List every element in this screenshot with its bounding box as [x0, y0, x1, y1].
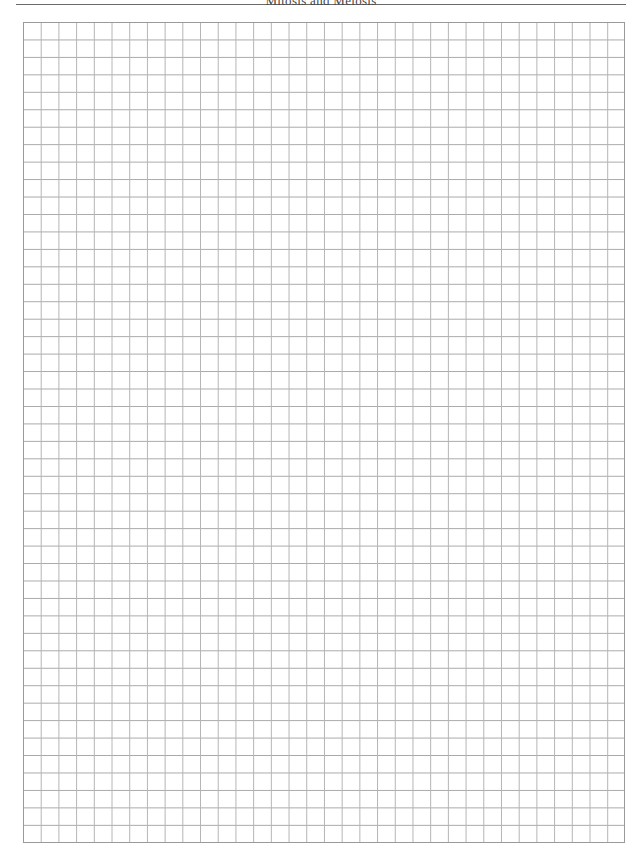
graph-paper-grid — [23, 22, 625, 843]
page-header: Mitosis and Meiosis — [16, 0, 626, 5]
page-title: Mitosis and Meiosis — [265, 0, 376, 8]
